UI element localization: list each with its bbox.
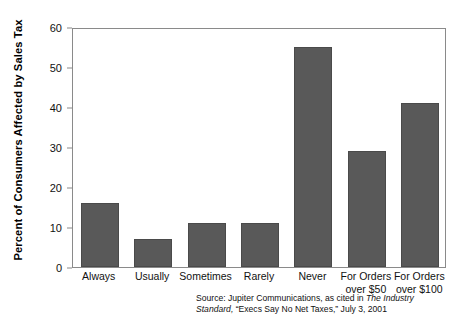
y-tick-label: 0 [56, 262, 62, 274]
bar [134, 239, 172, 267]
x-axis-label-line1: For Orders [340, 270, 391, 282]
source-note: Source: Jupiter Communications, as cited… [196, 293, 450, 314]
bar [241, 223, 279, 267]
y-axis-title: Percent of Consumers Affected by Sales T… [0, 0, 36, 280]
bar [188, 223, 226, 267]
bar [81, 203, 119, 267]
x-axis-label-line1: Rarely [244, 270, 274, 282]
y-tick-label: 30 [50, 142, 62, 154]
y-axis-title-text: Percent of Consumers Affected by Sales T… [12, 19, 24, 260]
source-line-1: Source: Jupiter Communications, as cited… [196, 293, 414, 303]
source-italic-2: Standard, [196, 304, 233, 314]
x-axis-label-line1: Usually [135, 270, 169, 282]
bar [348, 151, 386, 267]
x-axis-label-line1: Sometimes [179, 270, 232, 282]
y-tick-label: 60 [50, 22, 62, 34]
x-axis-label: For Ordersover $100 [386, 270, 453, 295]
y-tick-label: 20 [50, 182, 62, 194]
y-axis-ticks: 0102030405060 [40, 28, 72, 268]
x-axis-label-line1: For Orders [394, 270, 445, 282]
source-rest: “Execs Say No Net Taxes,” July 3, 2001 [233, 304, 387, 314]
x-axis-label-line1: Never [298, 270, 326, 282]
bar-chart-figure: Percent of Consumers Affected by Sales T… [0, 0, 453, 318]
plot-area [72, 28, 446, 268]
source-line-2: Standard, “Execs Say No Net Taxes,” July… [196, 304, 387, 314]
source-prefix: Source: Jupiter Communications, as cited… [196, 293, 366, 303]
y-tick-label: 10 [50, 222, 62, 234]
x-axis-label-line1: Always [82, 270, 115, 282]
bar [294, 47, 332, 267]
bar [401, 103, 439, 267]
source-italic-1: The Industry [366, 293, 414, 303]
bars-layer [73, 29, 445, 267]
y-tick-label: 50 [50, 62, 62, 74]
y-tick-label: 40 [50, 102, 62, 114]
